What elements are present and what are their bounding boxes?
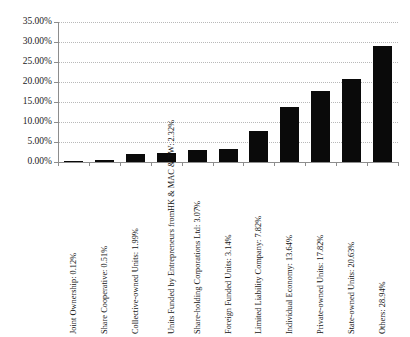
y-tick-label: 15.00%	[23, 97, 52, 107]
x-axis-line	[58, 162, 399, 163]
bar	[280, 107, 299, 162]
bar	[64, 161, 83, 162]
x-axis-category-label-line: State-owned Units: 20.63%	[347, 242, 357, 334]
x-axis-category-label-line: Limited Liability Company: 7.82%	[254, 216, 264, 334]
bar	[95, 160, 114, 162]
bar-chart: 0.00%5.00%10.00%15.00%20.00%25.00%30.00%…	[0, 0, 410, 337]
x-axis-category-label-line: Individual Economy: 13.64%	[285, 235, 295, 334]
y-tick-label: 30.00%	[23, 37, 52, 47]
x-axis-category-label: Limited Liability Company: 7.82%	[253, 166, 264, 334]
x-axis-category-label-line: Collective-owned Units: 1.99%	[131, 228, 141, 334]
y-tick-label: 0.00%	[27, 157, 52, 167]
y-tick-label: 10.00%	[23, 117, 52, 127]
x-axis-category-label-line: Share Cooperative: 0.51%	[100, 246, 110, 334]
x-axis-category-label: Collective-owned Units: 1.99%	[130, 166, 141, 334]
bar	[219, 149, 238, 162]
x-axis-labels: Joint Ownership: 0.12%Share Cooperative:…	[58, 166, 398, 336]
x-axis-category-label-line: Others: 28.94%	[378, 281, 388, 334]
x-axis-category-label: Others: 28.94%	[377, 166, 388, 334]
x-tick-mark	[398, 162, 399, 166]
y-tick-label: 5.00%	[27, 137, 52, 147]
x-axis-category-label: Foreign Funded Units: 3.14%	[223, 166, 234, 334]
x-axis-category-label-line: Private-owned Units: 17.82%	[316, 235, 326, 334]
x-axis-category-label: Share-holding Corporations Ltd: 3.07%	[192, 166, 203, 334]
x-axis-category-label: State-owned Units: 20.63%	[346, 166, 357, 334]
x-axis-category-label-line: HK & MAC & TW: 2.32%	[167, 120, 177, 211]
bar	[126, 154, 145, 162]
bar	[373, 46, 392, 162]
x-axis-category-label: Units Funded by Entrepreneurs fromHK & M…	[155, 166, 177, 334]
bar	[249, 131, 268, 162]
x-axis-category-label: Share Cooperative: 0.51%	[99, 166, 110, 334]
y-tick-label: 35.00%	[23, 17, 52, 27]
x-axis-category-label-line: Share-holding Corporations Ltd: 3.07%	[193, 201, 203, 334]
bar-series	[58, 22, 398, 162]
y-tick-label: 20.00%	[23, 77, 52, 87]
x-axis-category-label: Private-owned Units: 17.82%	[315, 166, 326, 334]
bar	[342, 79, 361, 162]
x-axis-category-label-line: Joint Ownership: 0.12%	[69, 253, 79, 334]
x-axis-category-label-line: Units Funded by Entrepreneurs from	[167, 211, 177, 334]
x-axis-category-label: Joint Ownership: 0.12%	[68, 166, 79, 334]
x-axis-category-label: Individual Economy: 13.64%	[284, 166, 295, 334]
x-axis-category-label-line: Foreign Funded Units: 3.14%	[224, 234, 234, 334]
bar	[188, 150, 207, 162]
bar	[311, 91, 330, 162]
y-tick-label: 25.00%	[23, 57, 52, 67]
